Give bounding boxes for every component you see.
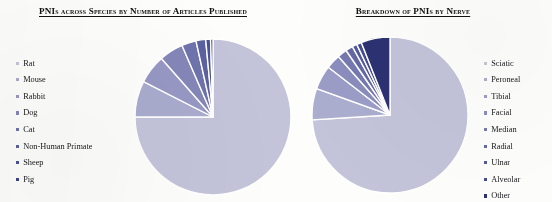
legend-swatch-icon [484, 194, 487, 197]
legend-item-peroneal[interactable]: Peroneal [484, 72, 520, 89]
legend-item-radial[interactable]: Radial [484, 138, 520, 155]
legend-swatch-icon [16, 178, 19, 181]
legend-swatch-icon [484, 128, 487, 131]
legend-item-rat[interactable]: Rat [16, 55, 93, 72]
legend-swatch-icon [484, 145, 487, 148]
legend-swatch-icon [16, 145, 19, 148]
legend-item-label: Other [491, 192, 510, 200]
legend-swatch-icon [16, 95, 19, 98]
legend-swatch-icon [484, 161, 487, 164]
legend-item-cat[interactable]: Cat [16, 121, 93, 138]
pie-chart-nerve [311, 36, 469, 194]
legend-item-sheep[interactable]: Sheep [16, 155, 93, 172]
legend-item-label: Sheep [23, 159, 43, 167]
legend-species: RatMouseRabbitDogCatNon-Human PrimateShe… [16, 55, 93, 188]
legend-item-median[interactable]: Median [484, 121, 520, 138]
legend-item-label: Dog [23, 109, 37, 117]
legend-item-pig[interactable]: Pig [16, 171, 93, 188]
legend-item-non-human-primate[interactable]: Non-Human Primate [16, 138, 93, 155]
legend-item-label: Pig [23, 176, 34, 184]
legend-item-rabbit[interactable]: Rabbit [16, 88, 93, 105]
legend-item-label: Ulnar [491, 159, 510, 167]
legend-item-label: Radial [491, 143, 513, 151]
legend-item-label: Sciatic [491, 60, 514, 68]
legend-item-label: Peroneal [491, 76, 520, 84]
legend-swatch-icon [16, 111, 19, 114]
legend-swatch-icon [16, 161, 19, 164]
legend-item-label: Non-Human Primate [23, 143, 92, 151]
legend-item-label: Cat [23, 126, 35, 134]
figure-panel: PNIs across Species by Number of Article… [0, 0, 552, 202]
legend-swatch-icon [484, 78, 487, 81]
pie-svg [311, 36, 469, 194]
legend-item-label: Alveolar [491, 176, 520, 184]
legend-item-alveolar[interactable]: Alveolar [484, 171, 520, 188]
legend-item-tibial[interactable]: Tibial [484, 88, 520, 105]
legend-item-label: Facial [491, 109, 511, 117]
pie-svg [134, 38, 292, 196]
legend-swatch-icon [484, 62, 487, 65]
legend-swatch-icon [484, 111, 487, 114]
legend-item-label: Tibial [491, 93, 511, 101]
legend-item-label: Median [491, 126, 516, 134]
legend-nerve: SciaticPeronealTibialFacialMedianRadialU… [484, 55, 520, 202]
page-title-right: Breakdown of PNIs by Nerve [286, 6, 540, 16]
legend-item-label: Mouse [23, 76, 46, 84]
page-title-left: PNIs across Species by Number of Article… [10, 6, 276, 16]
legend-swatch-icon [16, 78, 19, 81]
legend-swatch-icon [16, 128, 19, 131]
legend-item-label: Rabbit [23, 93, 45, 101]
legend-swatch-icon [484, 178, 487, 181]
pie-chart-species [134, 38, 292, 196]
legend-item-facial[interactable]: Facial [484, 105, 520, 122]
legend-item-other[interactable]: Other [484, 188, 520, 202]
legend-item-sciatic[interactable]: Sciatic [484, 55, 520, 72]
legend-item-ulnar[interactable]: Ulnar [484, 155, 520, 172]
legend-item-mouse[interactable]: Mouse [16, 72, 93, 89]
legend-swatch-icon [484, 95, 487, 98]
legend-swatch-icon [16, 62, 19, 65]
legend-item-label: Rat [23, 60, 35, 68]
legend-item-dog[interactable]: Dog [16, 105, 93, 122]
